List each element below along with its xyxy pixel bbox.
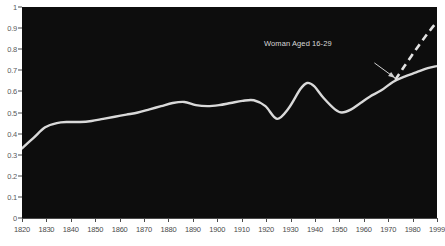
x-axis-tick-label: 1920 — [258, 225, 274, 234]
x-axis-tick-label: 1900 — [209, 225, 225, 234]
x-axis-tick-mark — [339, 218, 340, 222]
x-axis-tick-label: 1850 — [87, 225, 103, 234]
x-axis-tick-mark — [413, 218, 414, 222]
y-axis-tick-label: 0.7 — [7, 66, 17, 75]
y-axis-tick-label: 1 — [13, 3, 17, 12]
data-line-projection — [395, 22, 437, 80]
x-axis: 1820183018401850186018701880189019001910… — [0, 218, 444, 246]
x-axis-tick-label: 1820 — [14, 225, 30, 234]
plot-area: Woman Aged 16-29 — [22, 7, 437, 218]
y-axis-tick-label: 0.9 — [7, 24, 17, 33]
x-axis-tick-label: 1860 — [112, 225, 128, 234]
x-axis-tick-label: 1870 — [136, 225, 152, 234]
x-axis-tick-label: 1980 — [405, 225, 421, 234]
x-axis-tick-mark — [217, 218, 218, 222]
x-axis-tick-mark — [95, 218, 96, 222]
x-axis-tick-mark — [193, 218, 194, 222]
x-axis-tick-mark — [22, 218, 23, 222]
x-axis-tick-label: 1840 — [63, 225, 79, 234]
x-axis-line — [22, 218, 437, 219]
x-axis-tick-mark — [120, 218, 121, 222]
x-axis-tick-label: 1890 — [185, 225, 201, 234]
x-axis-tick-mark — [291, 218, 292, 222]
x-axis-tick-label: 1960 — [356, 225, 372, 234]
y-axis-tick-label: 0.6 — [7, 87, 17, 96]
x-axis-tick-mark — [144, 218, 145, 222]
x-axis-tick-mark — [364, 218, 365, 222]
annotation-label: Woman Aged 16-29 — [264, 39, 332, 48]
x-axis-tick-label: 1910 — [234, 225, 250, 234]
x-axis-tick-mark — [46, 218, 47, 222]
x-axis-tick-label: 1880 — [161, 225, 177, 234]
x-axis-tick-label: 1970 — [380, 225, 396, 234]
x-axis-tick-label: 1999 — [429, 225, 445, 234]
x-axis-tick-label: 1950 — [331, 225, 347, 234]
annotation-arrow — [374, 63, 395, 78]
y-axis-tick-label: 0.2 — [7, 171, 17, 180]
y-axis-tick-label: 0.5 — [7, 108, 17, 117]
y-axis: 00.10.20.30.40.50.60.70.80.91 — [0, 0, 22, 246]
x-axis-tick-mark — [266, 218, 267, 222]
x-axis-tick-mark — [437, 218, 438, 222]
y-axis-tick-label: 0.3 — [7, 150, 17, 159]
x-axis-tick-label: 1830 — [38, 225, 54, 234]
x-axis-tick-mark — [388, 218, 389, 222]
y-axis-tick-label: 0.8 — [7, 45, 17, 54]
x-axis-tick-mark — [71, 218, 72, 222]
x-axis-tick-label: 1930 — [283, 225, 299, 234]
data-line-main — [22, 66, 437, 148]
x-axis-tick-mark — [242, 218, 243, 222]
plot-svg — [22, 7, 437, 218]
x-axis-tick-mark — [315, 218, 316, 222]
x-axis-tick-mark — [168, 218, 169, 222]
x-axis-tick-label: 1940 — [307, 225, 323, 234]
y-axis-tick-label: 0.1 — [7, 192, 17, 201]
y-axis-tick-label: 0.4 — [7, 129, 17, 138]
